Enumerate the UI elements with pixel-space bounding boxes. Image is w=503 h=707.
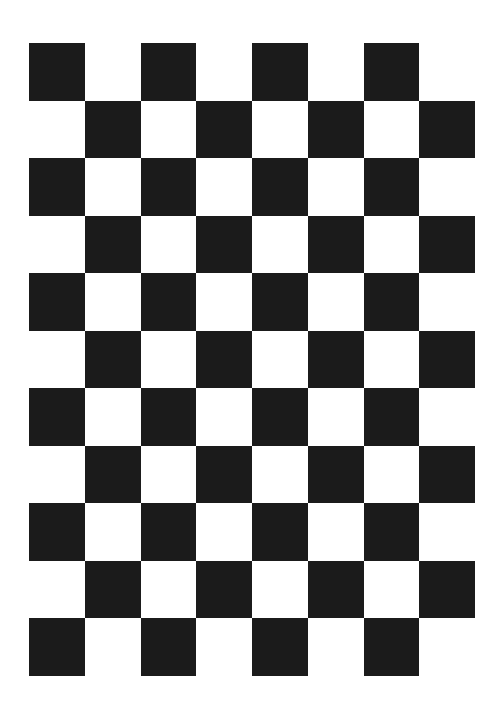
light-square (308, 273, 364, 331)
dark-square (29, 273, 85, 331)
dark-square (141, 43, 197, 101)
light-square (419, 43, 475, 101)
light-square (419, 158, 475, 216)
dark-square (29, 503, 85, 561)
light-square (29, 216, 85, 274)
light-square (308, 618, 364, 676)
dark-square (419, 446, 475, 504)
dark-square (308, 101, 364, 159)
dark-square (252, 273, 308, 331)
light-square (196, 273, 252, 331)
light-square (29, 446, 85, 504)
dark-square (364, 503, 420, 561)
light-square (196, 503, 252, 561)
dark-square (29, 43, 85, 101)
light-square (419, 273, 475, 331)
light-square (141, 331, 197, 389)
dark-square (252, 618, 308, 676)
light-square (308, 158, 364, 216)
dark-square (252, 43, 308, 101)
dark-square (252, 158, 308, 216)
light-square (85, 273, 141, 331)
dark-square (29, 618, 85, 676)
dark-square (364, 388, 420, 446)
dark-square (419, 561, 475, 619)
light-square (29, 561, 85, 619)
light-square (308, 43, 364, 101)
light-square (85, 503, 141, 561)
light-square (85, 388, 141, 446)
dark-square (419, 331, 475, 389)
light-square (364, 101, 420, 159)
dark-square (196, 216, 252, 274)
light-square (252, 446, 308, 504)
dark-square (364, 273, 420, 331)
light-square (308, 503, 364, 561)
light-square (364, 561, 420, 619)
light-square (364, 446, 420, 504)
light-square (252, 216, 308, 274)
dark-square (85, 331, 141, 389)
dark-square (252, 503, 308, 561)
light-square (308, 388, 364, 446)
light-square (141, 216, 197, 274)
light-square (252, 561, 308, 619)
dark-square (141, 158, 197, 216)
dark-square (85, 446, 141, 504)
dark-square (419, 101, 475, 159)
dark-square (29, 158, 85, 216)
light-square (196, 43, 252, 101)
dark-square (364, 158, 420, 216)
light-square (85, 158, 141, 216)
dark-square (85, 216, 141, 274)
light-square (419, 503, 475, 561)
light-square (364, 216, 420, 274)
dark-square (196, 446, 252, 504)
dark-square (141, 618, 197, 676)
light-square (419, 618, 475, 676)
dark-square (141, 503, 197, 561)
dark-square (364, 618, 420, 676)
light-square (29, 331, 85, 389)
light-square (196, 388, 252, 446)
dark-square (29, 388, 85, 446)
dark-square (308, 331, 364, 389)
light-square (252, 101, 308, 159)
light-square (141, 446, 197, 504)
light-square (85, 43, 141, 101)
dark-square (419, 216, 475, 274)
dark-square (308, 561, 364, 619)
dark-square (308, 446, 364, 504)
light-square (196, 618, 252, 676)
dark-square (196, 101, 252, 159)
dark-square (196, 331, 252, 389)
checkerboard-pattern (29, 43, 475, 676)
light-square (252, 331, 308, 389)
light-square (364, 331, 420, 389)
light-square (196, 158, 252, 216)
dark-square (196, 561, 252, 619)
dark-square (85, 561, 141, 619)
dark-square (364, 43, 420, 101)
dark-square (308, 216, 364, 274)
light-square (141, 101, 197, 159)
dark-square (141, 388, 197, 446)
light-square (85, 618, 141, 676)
light-square (141, 561, 197, 619)
dark-square (141, 273, 197, 331)
light-square (419, 388, 475, 446)
light-square (29, 101, 85, 159)
dark-square (85, 101, 141, 159)
dark-square (252, 388, 308, 446)
